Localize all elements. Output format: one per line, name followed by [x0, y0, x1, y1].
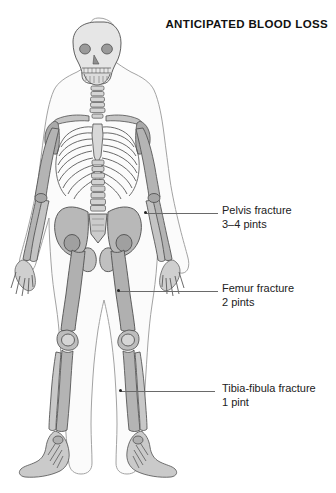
callout-pelvis-volume: 3–4 pints	[222, 218, 292, 232]
callout-femur: Femur fracture 2 pints	[222, 282, 294, 309]
callout-tibia-fibula: Tibia-fibula fracture 1 pint	[222, 382, 316, 409]
cropped-caption-mark	[9, 486, 19, 493]
callout-femur-volume: 2 pints	[222, 296, 294, 310]
skeleton-illustration	[0, 0, 336, 493]
callout-tibia-fibula-volume: 1 pint	[222, 396, 316, 410]
leader-dot-femur	[117, 289, 120, 292]
leader-line-femur	[119, 291, 218, 292]
callout-pelvis: Pelvis fracture 3–4 pints	[222, 204, 292, 231]
leader-line-pelvis	[146, 213, 218, 214]
leader-line-tibia-fibula	[121, 391, 215, 392]
feet	[19, 431, 176, 477]
leader-dot-pelvis	[144, 211, 147, 214]
callout-tibia-fibula-site: Tibia-fibula fracture	[222, 382, 316, 396]
callout-femur-site: Femur fracture	[222, 282, 294, 296]
figure-canvas: ANTICIPATED BLOOD LOSS	[0, 0, 336, 493]
callout-pelvis-site: Pelvis fracture	[222, 204, 292, 218]
cervical-spine	[90, 86, 105, 113]
leader-dot-tibia-fibula	[119, 389, 122, 392]
